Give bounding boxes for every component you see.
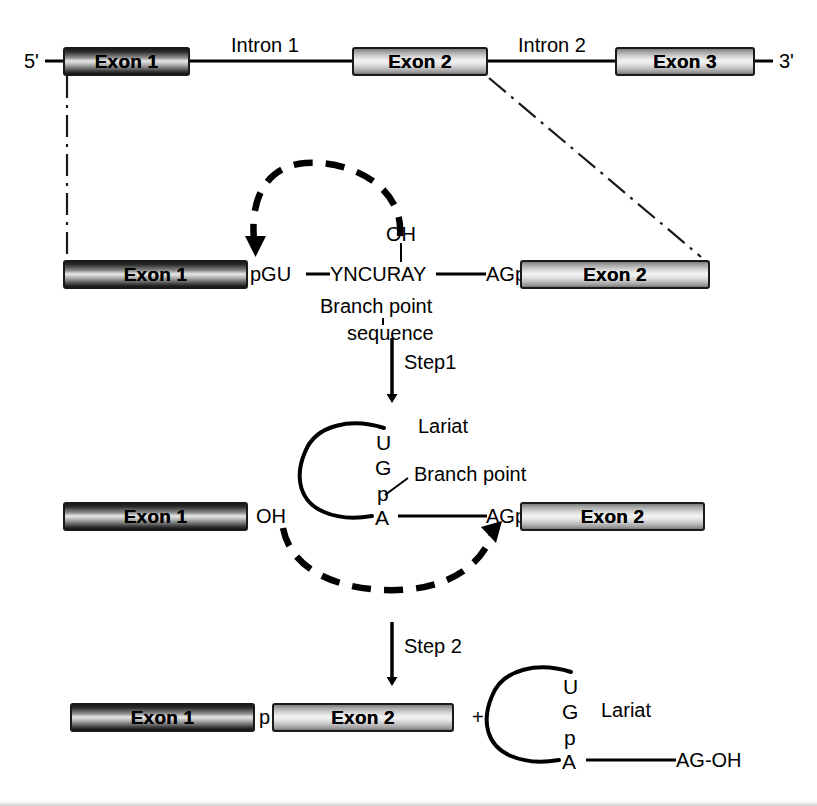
branch-hydroxyl-label: OH	[386, 224, 416, 244]
attack-arrowhead-1	[245, 236, 266, 257]
product-exon1-box: Exon 1	[70, 703, 255, 732]
guide-line-right	[489, 78, 701, 257]
magnification-guides	[67, 76, 701, 257]
exon1-free-hydroxyl-label: OH	[256, 506, 286, 526]
branch-point-sequence-caption-line1: Branch point	[320, 296, 432, 316]
lariat-letter-u-1: U	[376, 432, 391, 453]
pre-mrna-exon3-box: Exon 3	[615, 47, 755, 76]
intron1-label: Intron 1	[231, 35, 299, 55]
donor-site-label: pGU	[250, 264, 291, 284]
step1-label: Step1	[404, 352, 456, 372]
lariat-letter-g-2: G	[562, 701, 578, 722]
lariat-row-exon1-box: Exon 1	[63, 502, 248, 531]
lariat-letter-g-1: G	[375, 457, 391, 478]
step2-label: Step 2	[404, 636, 462, 656]
intron2-label: Intron 2	[518, 35, 586, 55]
lariat-loop-path-1	[300, 423, 384, 517]
lariat-letter-p-2: p	[564, 727, 576, 748]
intron-row-exon1-box: Exon 1	[63, 260, 248, 289]
intron-row-exon2-box: Exon 2	[520, 260, 710, 289]
five-prime-label: 5'	[24, 51, 39, 71]
pre-mrna-exon1-box: Exon 1	[63, 47, 190, 76]
lariat-loop-path-2	[487, 667, 571, 761]
three-prime-label: 3'	[779, 51, 794, 71]
lariat-letter-a-2: A	[562, 751, 576, 772]
nucleophilic-attack-arc-2	[283, 528, 492, 590]
junction-phosphate-label: p	[259, 707, 270, 727]
lariat-row-exon2-box: Exon 2	[520, 502, 705, 531]
nucleophilic-attack-arc-1	[253, 163, 400, 240]
plus-sign-label: +	[472, 707, 484, 727]
lariat-label-1: Lariat	[418, 416, 468, 436]
branch-point-label: Branch point	[414, 464, 526, 484]
splicing-diagram: 5' Exon 1 Intron 1 Exon 2 Intron 2 Exon …	[0, 0, 817, 806]
product-exon2-box: Exon 2	[272, 703, 454, 732]
lariat-letter-a-1: A	[375, 507, 389, 528]
pre-mrna-exon2-box: Exon 2	[352, 47, 488, 76]
lariat-tail-label: AG-OH	[676, 750, 742, 770]
branch-point-sequence-label: YNCURAY	[330, 264, 426, 284]
lariat-label-2: Lariat	[601, 700, 651, 720]
lariat-letter-p-1: p	[377, 483, 389, 504]
lariat-letter-u-2: U	[563, 676, 578, 697]
branch-point-sequence-caption-line2: sequence	[347, 323, 434, 343]
diagram-vector-layer	[0, 0, 817, 806]
page-bottom-edge	[0, 801, 817, 806]
